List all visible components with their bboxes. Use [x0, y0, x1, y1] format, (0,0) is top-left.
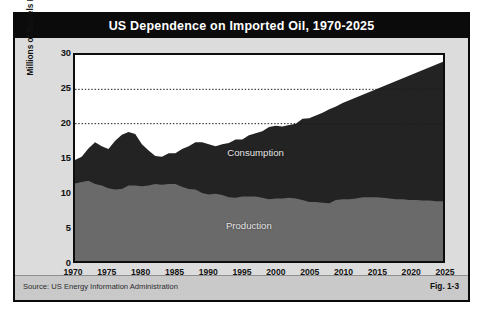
y-tick-20: 20 [47, 118, 71, 128]
figure-title: US Dependence on Imported Oil, 1970-2025 [109, 19, 375, 33]
figure-number: Fig. 1-3 [430, 281, 459, 291]
chart-body: Millions of Barrels Per Day 051015202530… [15, 38, 468, 276]
plot-area [73, 53, 445, 263]
figure-footer: Source: US Energy Information Administra… [15, 275, 468, 300]
y-tick-30: 30 [47, 48, 71, 58]
figure-title-bar: US Dependence on Imported Oil, 1970-2025 [15, 14, 468, 38]
y-tick-25: 25 [47, 83, 71, 93]
source-note: Source: US Energy Information Administra… [23, 282, 178, 291]
series-label-consumption: Consumption [227, 146, 284, 157]
y-tick-10: 10 [47, 188, 71, 198]
y-tick-5: 5 [47, 223, 71, 233]
y-axis-label: Millions of Barrels Per Day [25, 0, 39, 88]
figure-card: US Dependence on Imported Oil, 1970-2025… [13, 12, 470, 302]
series-label-production: Production [226, 220, 272, 231]
y-tick-15: 15 [47, 153, 71, 163]
y-axis-ticks: 051015202530 [41, 38, 71, 276]
